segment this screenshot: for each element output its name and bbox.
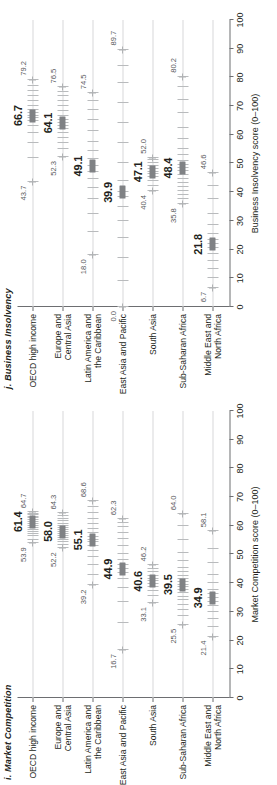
economy-observation-mark: [117, 587, 128, 588]
region-row[interactable]: Europe andCentral Asia52.264.358.0: [47, 411, 77, 698]
economy-observation-mark: [27, 105, 38, 106]
category-axis-tick: [92, 307, 93, 311]
regional-average-bar[interactable]: [89, 533, 95, 546]
plot-area-i: OECD high income53.964.761.4Europe andCe…: [17, 411, 229, 698]
region-row[interactable]: Sub-Saharan Africa35.880.248.4: [167, 20, 197, 307]
minimum-value-label: 6.7: [198, 292, 207, 303]
regional-average-bar[interactable]: [209, 591, 215, 604]
maximum-value-label: 64.0: [168, 496, 177, 511]
region-gridline: [122, 20, 123, 307]
value-axis-tick: [229, 496, 233, 497]
region-gridline: [152, 411, 153, 698]
regional-average-bar[interactable]: [119, 563, 125, 576]
region-gridline: [62, 20, 63, 307]
region-row[interactable]: Middle East andNorth Africa21.458.134.9: [197, 411, 227, 698]
value-axis-tick-label: 80: [234, 72, 244, 82]
regional-average-bar[interactable]: [209, 238, 215, 251]
economy-observation-mark: [27, 157, 38, 158]
value-axis-tick: [229, 640, 233, 641]
value-axis-tick: [229, 48, 233, 49]
regional-average-bar[interactable]: [59, 117, 65, 130]
region-gridline: [62, 411, 63, 698]
value-axis-tick-label: 60: [234, 521, 244, 531]
region-row[interactable]: OECD high income43.779.266.7: [17, 20, 47, 307]
minimum-value-label: 40.4: [138, 195, 147, 210]
economy-observation-mark: [207, 611, 218, 612]
regional-average-bar[interactable]: [29, 515, 35, 528]
maximum-marker: [92, 90, 93, 97]
economy-observation-mark: [57, 539, 68, 540]
economy-observation-mark: [207, 548, 218, 549]
value-axis-tick-label: 80: [234, 463, 244, 473]
region-row[interactable]: Latin America andthe Caribbean18.074.549…: [77, 20, 107, 307]
economy-observation-mark: [177, 182, 188, 183]
value-axis-tick-label: 0: [234, 304, 244, 309]
minimum-value-label: 25.5: [168, 629, 177, 644]
economy-observation-mark: [177, 599, 188, 600]
maximum-value-label: 68.6: [78, 482, 87, 497]
regional-average-bar[interactable]: [59, 525, 65, 538]
regional-average-bar[interactable]: [89, 160, 95, 173]
region-row[interactable]: South Asia33.146.240.6: [137, 411, 167, 698]
economy-observation-mark: [27, 85, 38, 86]
region-row[interactable]: East Asia and Pacific16.762.344.9: [107, 411, 137, 698]
value-axis-tick: [229, 220, 233, 221]
regional-average-label: 55.1: [71, 530, 83, 551]
region-row[interactable]: Latin America andthe Caribbean39.268.655…: [77, 411, 107, 698]
economy-observation-mark: [27, 95, 38, 96]
economy-observation-mark: [207, 268, 218, 269]
region-row[interactable]: OECD high income53.964.761.4: [17, 411, 47, 698]
value-axis-tick-label: 10: [234, 664, 244, 674]
value-axis-tick-label: 30: [234, 607, 244, 617]
regional-average-bar[interactable]: [29, 109, 35, 122]
minimum-marker: [212, 633, 213, 640]
region-row[interactable]: Middle East andNorth Africa6.746.621.8: [197, 20, 227, 307]
value-axis-tick: [229, 668, 233, 669]
maximum-marker: [212, 528, 213, 535]
economy-observation-mark: [87, 518, 98, 519]
value-axis-tick: [229, 410, 233, 411]
regional-average-bar[interactable]: [149, 575, 155, 588]
economy-observation-mark: [27, 100, 38, 101]
region-label: Middle East andNorth Africa: [202, 314, 222, 376]
regional-average-bar[interactable]: [149, 165, 155, 178]
maximum-marker: [122, 516, 123, 523]
minimum-value-label: 18.0: [78, 259, 87, 274]
economy-observation-mark: [177, 127, 188, 128]
maximum-marker: [182, 73, 183, 80]
economy-observation-mark: [177, 99, 188, 100]
minimum-marker: [122, 647, 123, 654]
region-row[interactable]: Sub-Saharan Africa25.564.039.5: [167, 411, 197, 698]
economy-observation-mark: [177, 552, 188, 553]
minimum-value-label: 52.2: [48, 552, 57, 567]
region-label: South Asia: [147, 314, 157, 355]
regional-average-bar[interactable]: [179, 162, 185, 175]
minimum-marker: [32, 178, 33, 185]
economy-observation-mark: [177, 539, 188, 540]
economy-observation-mark: [177, 567, 188, 568]
regional-average-bar[interactable]: [119, 186, 125, 199]
economy-observation-mark: [117, 142, 128, 143]
economy-observation-mark: [87, 528, 98, 529]
category-axis-tick: [32, 698, 33, 702]
economy-observation-mark: [117, 559, 128, 560]
value-axis-tick: [229, 439, 233, 440]
economy-observation-mark: [207, 626, 218, 627]
value-axis-tick: [229, 76, 233, 77]
economy-observation-mark: [27, 132, 38, 133]
value-axis-tick: [229, 554, 233, 555]
regional-average-label: 61.4: [11, 511, 23, 532]
value-axis-tick-label: 50: [234, 158, 244, 168]
value-axis-tick-label: 20: [234, 245, 244, 255]
economy-observation-mark: [87, 109, 98, 110]
maximum-value-label: 80.2: [168, 58, 177, 73]
economy-observation-mark: [117, 578, 128, 579]
economy-observation-mark: [57, 105, 68, 106]
minimum-marker: [62, 153, 63, 160]
regional-average-bar[interactable]: [179, 578, 185, 591]
economy-observation-mark: [117, 257, 128, 258]
economy-observation-mark: [207, 224, 218, 225]
maximum-marker: [62, 510, 63, 517]
